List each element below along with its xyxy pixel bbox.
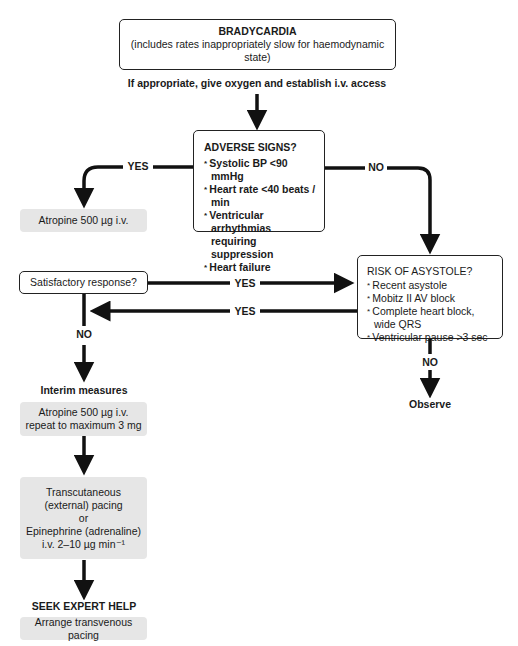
bradycardia-title: BRADYCARDIA <box>218 25 296 38</box>
no-label-satisfactory: NO <box>73 328 95 340</box>
initial-action-text: If appropriate, give oxygen and establis… <box>100 77 414 89</box>
atropine-repeat-box: Atropine 500 µg i.v. repeat to maximum 3… <box>20 402 147 436</box>
yes-label-adverse: YES <box>123 160 153 172</box>
observe-text: Observe <box>400 398 460 410</box>
no-label-risk: NO <box>419 356 441 368</box>
adverse-signs-box: ADVERSE SIGNS? Systolic BP <90 mmHg Hear… <box>193 130 325 232</box>
pacing-line2: (external) pacing <box>44 499 122 512</box>
adverse-sign-item: Ventricular arrhythmias requiring suppre… <box>204 209 318 261</box>
pacing-line4: Epinephrine (adrenaline) <box>26 525 141 538</box>
satisfactory-response-box: Satisfactory response? <box>19 271 148 294</box>
atropine-first-box: Atropine 500 µg i.v. <box>20 209 147 232</box>
risk-of-asystole-box: RISK OF ASYSTOLE? Recent asystole Mobitz… <box>357 255 503 339</box>
adverse-sign-item: Heart failure <box>204 261 318 274</box>
risk-item: Recent asystole <box>367 279 498 292</box>
pacing-box: Transcutaneous (external) pacing or Epin… <box>20 477 147 559</box>
risk-item: Mobitz II AV block <box>367 292 498 305</box>
pacing-line1: Transcutaneous <box>46 486 121 499</box>
pacing-line5: i.v. 2–10 µg min⁻¹ <box>42 538 125 551</box>
adverse-sign-item: Heart rate <40 beats / min <box>204 183 318 209</box>
transvenous-pacing-box: Arrange transvenous pacing <box>20 617 147 640</box>
risk-item: Ventricular pause >3 sec <box>367 331 498 344</box>
interim-measures-heading: Interim measures <box>34 384 134 396</box>
atropine-repeat-line1: Atropine 500 µg i.v. <box>39 406 129 419</box>
seek-expert-help-heading: SEEK EXPERT HELP <box>24 600 144 612</box>
risk-item: Complete heart block, wide QRS <box>367 305 498 331</box>
pacing-or: or <box>79 512 88 525</box>
satisfactory-response-text: Satisfactory response? <box>30 276 137 289</box>
yes-label-satisfactory: YES <box>230 277 260 289</box>
no-label-adverse: NO <box>365 161 387 173</box>
bradycardia-start-box: BRADYCARDIA (includes rates inappropriat… <box>119 19 396 70</box>
bradycardia-subtitle: (includes rates inappropriately slow for… <box>120 38 395 64</box>
transvenous-pacing-text: Arrange transvenous pacing <box>20 616 147 642</box>
adverse-sign-item: Systolic BP <90 mmHg <box>204 157 318 183</box>
atropine-repeat-line2: repeat to maximum 3 mg <box>25 419 141 432</box>
yes-label-risk: YES <box>230 305 260 317</box>
atropine-first-text: Atropine 500 µg i.v. <box>39 214 129 227</box>
risk-of-asystole-title: RISK OF ASYSTOLE? <box>367 265 498 278</box>
adverse-signs-title: ADVERSE SIGNS? <box>204 141 318 154</box>
